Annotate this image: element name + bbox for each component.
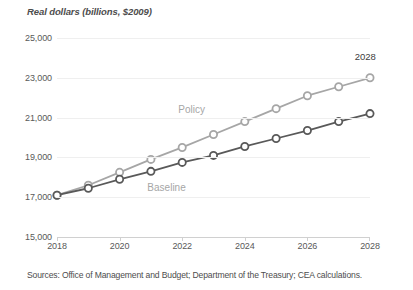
data-point-baseline: [241, 143, 248, 150]
data-point-policy: [335, 83, 342, 90]
data-point-baseline: [366, 110, 373, 117]
y-axis-tick-label: 19,000: [25, 152, 52, 162]
data-point-baseline: [147, 168, 154, 175]
data-point-baseline: [179, 159, 186, 166]
y-axis-tick-label: 17,000: [25, 192, 52, 202]
x-axis-tick-label: 2028: [360, 241, 380, 251]
y-axis-tick-label: 21,000: [25, 113, 52, 123]
data-point-baseline: [85, 185, 92, 192]
data-point-baseline: [273, 135, 280, 142]
data-point-policy: [304, 92, 311, 99]
x-axis-tick-label: 2020: [110, 241, 130, 251]
y-axis-labels: 15,00017,00019,00021,00023,00025,000: [0, 38, 52, 237]
series-label-baseline: Baseline: [147, 182, 185, 193]
gridline: [57, 38, 370, 39]
data-point-baseline: [116, 176, 123, 183]
x-axis-tick-label: 2022: [172, 241, 192, 251]
chart-axis-title: Real dollars (billions, $2009): [27, 6, 152, 17]
y-axis-tick-label: 25,000: [25, 33, 52, 43]
data-point-policy: [241, 118, 248, 125]
gridline: [57, 157, 370, 158]
data-point-baseline: [335, 118, 342, 125]
series-lines: [57, 38, 370, 237]
gridline: [57, 78, 370, 79]
x-axis-tick-label: 2018: [47, 241, 67, 251]
data-point-policy: [273, 105, 280, 112]
chart-container: Real dollars (billions, $2009) 15,00017,…: [0, 0, 413, 290]
sources-note: Sources: Office of Management and Budget…: [27, 270, 362, 280]
annotation-label: 2028: [355, 50, 376, 61]
gridline: [57, 118, 370, 119]
x-axis-labels: 201820202022202420262028: [57, 241, 370, 257]
data-point-baseline: [304, 127, 311, 134]
data-point-policy: [210, 131, 217, 138]
gridline: [57, 197, 370, 198]
x-axis-tick-label: 2024: [235, 241, 255, 251]
data-point-policy: [179, 144, 186, 151]
series-label-policy: Policy: [178, 103, 205, 114]
y-axis-tick-label: 23,000: [25, 73, 52, 83]
plot-area: PolicyBaseline 2028: [57, 38, 370, 237]
x-axis-tick-label: 2026: [298, 241, 318, 251]
